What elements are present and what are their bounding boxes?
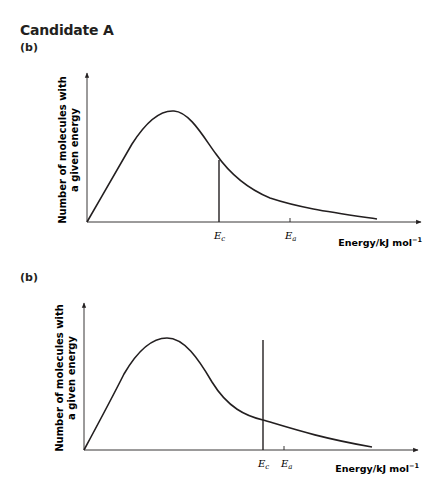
- ea-label: Ea: [280, 458, 293, 471]
- y-axis-label: Number of molecules with a given energy: [54, 304, 77, 452]
- chart-1: Ec Ea Energy/kJ mol−1 Number of molecule…: [57, 73, 422, 248]
- ec-label: Ec: [213, 230, 225, 243]
- figure-canvas: Ec Ea Energy/kJ mol−1 Number of molecule…: [0, 0, 443, 484]
- distribution-curve: [84, 338, 372, 450]
- svg-text:Number of molecules with: Number of molecules with: [57, 76, 68, 224]
- svg-text:a given energy: a given energy: [66, 336, 77, 420]
- x-axis-label: Energy/kJ mol−1: [335, 462, 419, 474]
- ea-label: Ea: [284, 230, 297, 243]
- svg-text:a given energy: a given energy: [69, 108, 80, 192]
- y-axis-label: Number of molecules with a given energy: [57, 76, 80, 224]
- chart-2: Ec Ea Energy/kJ mol−1 Number of molecule…: [54, 303, 419, 474]
- distribution-curve: [87, 111, 377, 222]
- ec-label: Ec: [257, 458, 269, 471]
- svg-text:Number of molecules with: Number of molecules with: [54, 304, 65, 452]
- x-axis-label: Energy/kJ mol−1: [338, 236, 422, 248]
